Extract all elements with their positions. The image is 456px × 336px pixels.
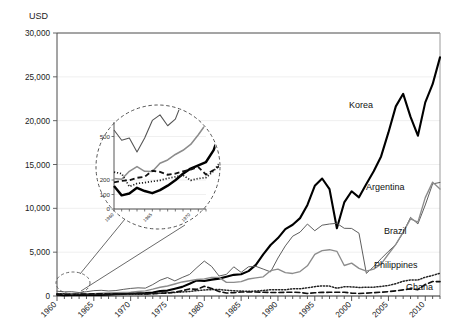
chart-container: USD 05,00010,00015,00020,00025,00030,000… [0,0,456,336]
y-axis-title: USD [29,11,49,21]
series-label-korea: Korea [349,100,373,110]
y-tick-label: 0 [45,292,50,301]
y-tick-label: 10,000 [25,204,50,213]
y-tick-label: 20,000 [25,117,50,126]
inset-y-tick-label: 0 [107,205,111,212]
inset-circle-border [96,105,220,229]
series-label-argentina: Argentina [366,182,405,192]
y-tick-label: 5,000 [30,248,51,257]
y-tick-label: 25,000 [25,73,50,82]
y-tick-label: 30,000 [25,29,50,38]
series-label-brazil: Brazil [384,226,407,236]
series-label-ghana: Ghana [406,282,433,292]
inset-y-tick-label: 100 [100,191,111,198]
inset-y-tick-label: 200 [100,176,111,183]
inset-y-tick-label: 500 [100,133,111,140]
y-tick-label: 15,000 [25,161,50,170]
gdp-per-capita-line-chart: USD 05,00010,00015,00020,00025,00030,000… [0,0,456,336]
series-label-philippines: Philippines [374,260,418,270]
